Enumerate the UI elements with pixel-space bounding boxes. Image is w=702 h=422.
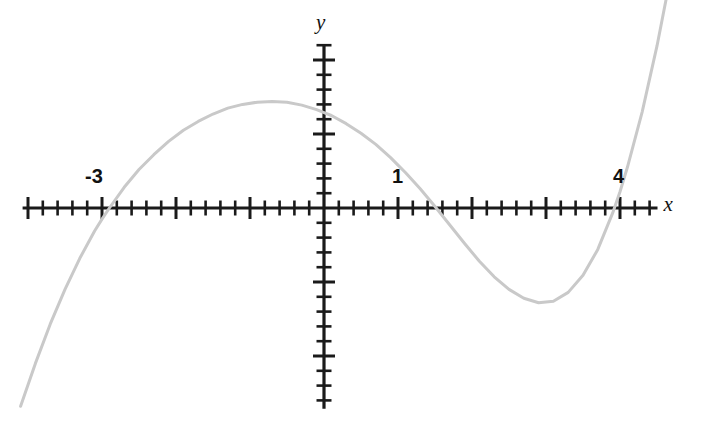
- cubic-graph-plot: [0, 0, 702, 422]
- graph-figure: -3 1 4 x y: [0, 0, 702, 422]
- cubic-curve: [21, 0, 676, 406]
- x-tick-label-four: 4: [613, 165, 624, 188]
- x-tick-label-neg3: -3: [85, 165, 103, 188]
- x-tick-label-one: 1: [392, 165, 403, 188]
- x-axis-label: x: [664, 192, 673, 217]
- y-axis-label: y: [316, 10, 325, 35]
